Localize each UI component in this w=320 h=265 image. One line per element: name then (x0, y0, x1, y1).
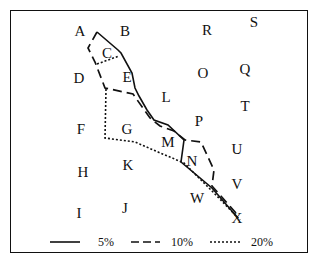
region-label-e: E (122, 70, 131, 85)
region-label-m: M (161, 135, 174, 150)
region-label-l: L (161, 90, 170, 105)
region-label-d: D (74, 71, 85, 86)
region-label-n: N (187, 154, 198, 169)
region-label-r: R (202, 23, 212, 38)
region-label-g: G (122, 122, 133, 137)
legend-label-5pct: 5% (98, 236, 114, 248)
region-label-q: Q (240, 62, 251, 77)
region-label-a: A (75, 24, 86, 39)
region-label-i: I (77, 206, 82, 221)
region-label-p: P (195, 114, 203, 129)
contour-5pct-solid (97, 32, 238, 218)
region-label-b: B (120, 24, 130, 39)
region-label-j: J (122, 201, 128, 216)
legend-label-10pct: 10% (171, 236, 193, 248)
contour-lines (0, 0, 320, 265)
region-label-t: T (240, 99, 249, 114)
region-label-o: O (198, 66, 209, 81)
region-label-k: K (123, 158, 134, 173)
region-label-c: C (102, 46, 112, 61)
region-label-u: U (232, 142, 243, 157)
contour-diagram: ABRSCDEOQLTFGPMUNKHVWIJX 5% 10% 20% (0, 0, 320, 265)
region-label-v: V (232, 177, 243, 192)
region-label-s: S (250, 15, 258, 30)
region-label-x: X (232, 211, 243, 226)
region-label-w: W (190, 191, 204, 206)
region-label-h: H (78, 165, 89, 180)
legend-label-20pct: 20% (251, 236, 273, 248)
region-label-f: F (77, 122, 85, 137)
